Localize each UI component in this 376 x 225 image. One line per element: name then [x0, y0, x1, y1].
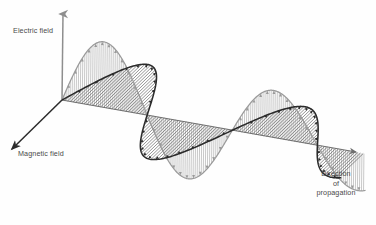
electric-field-axis: [62, 14, 63, 100]
direction-label-line2: of: [306, 179, 366, 189]
electric-field-label: Electric field: [13, 26, 53, 35]
magnetic-field-label: Magnetic field: [18, 149, 64, 158]
direction-label-line1: Direction: [306, 169, 366, 179]
direction-of-propagation-label: Direction of propagation: [306, 169, 366, 198]
propagation-axis: [62, 100, 356, 152]
emwave-figure: Electric field Magnetic field Direction …: [0, 0, 376, 225]
direction-label-line3: propagation: [306, 188, 366, 198]
magnetic-field-vector-arrows: [78, 65, 337, 178]
magnetic-field-axis: [12, 100, 62, 149]
